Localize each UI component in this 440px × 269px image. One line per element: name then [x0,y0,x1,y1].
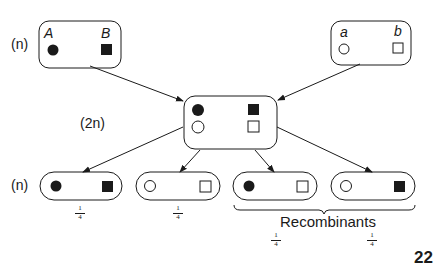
page-number: 22 [414,248,433,268]
open-square-icon [393,43,403,53]
open-circle-icon [341,181,352,192]
filled-circle-icon [51,181,62,192]
open-square-icon [200,181,211,192]
filled-square-icon [101,44,112,55]
arrow-zygote-to-progeny-2 [180,150,200,172]
arrow-parent-right-to-zygote [278,64,360,100]
filled-circle-icon [48,45,59,56]
recombinants-label: Recombinants [280,213,376,230]
zygote-ploidy-label: (2n) [80,116,105,130]
progeny-2 [136,172,220,200]
allele-a-label: a [340,25,348,39]
progeny-3-frequency: 14 [271,232,281,248]
arrow-parent-left-to-zygote [90,66,183,101]
arrow-zygote-to-progeny-1 [83,127,183,172]
filled-circle-icon [192,104,204,116]
filled-square-icon [102,181,113,192]
progeny-3-recombinant [233,172,317,200]
open-circle-icon [145,181,156,192]
open-circle-icon [192,121,204,133]
progeny-1-frequency: 14 [75,205,85,221]
filled-circle-icon [244,181,255,192]
filled-square-icon [248,104,259,115]
open-circle-icon [339,44,349,54]
progeny-2-frequency: 14 [173,205,183,221]
progeny-ploidy-label: (n) [11,178,28,192]
progeny-1 [40,172,122,200]
arrow-zygote-to-progeny-3 [255,150,274,172]
progeny-4-frequency: 14 [367,232,377,248]
parent-ploidy-label: (n) [11,37,28,51]
allele-b-label: b [394,24,402,38]
zygote-chromosome-pair [184,96,277,149]
open-square-icon [248,121,259,132]
arrow-zygote-to-progeny-4 [277,127,372,172]
allele-A-label: A [44,26,53,40]
open-square-icon [297,181,308,192]
allele-B-label: B [101,26,110,40]
filled-square-icon [394,181,405,192]
progeny-4-recombinant [331,172,415,200]
